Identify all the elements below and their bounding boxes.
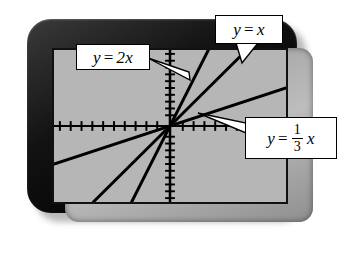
callout-label-third: y = 1 3 x bbox=[267, 123, 315, 154]
callout-lhs-two-x: y bbox=[93, 49, 101, 66]
callout-op-third: = bbox=[278, 130, 288, 147]
figure-canvas: y = 2x y = x y = 1 3 x bbox=[0, 0, 343, 259]
callout-lhs-third: y bbox=[267, 130, 275, 147]
callout-lhs-x: y bbox=[233, 21, 241, 38]
callout-label-x: y = x bbox=[233, 21, 264, 38]
callout-rhs-two-x: 2x bbox=[117, 49, 133, 66]
callout-y-equals-one-third-x: y = 1 3 x bbox=[245, 117, 337, 159]
callout-op-x: = bbox=[244, 21, 254, 38]
fraction-numerator: 1 bbox=[292, 123, 303, 138]
callout-op-two-x: = bbox=[104, 49, 114, 66]
callout-y-equals-2x: y = 2x bbox=[76, 44, 150, 70]
fraction-one-third: 1 3 bbox=[292, 123, 303, 154]
callout-variable-third: x bbox=[307, 130, 315, 147]
callout-rhs-x: x bbox=[257, 21, 265, 38]
callout-label-two-x: y = 2x bbox=[93, 49, 133, 66]
callout-y-equals-x: y = x bbox=[215, 15, 283, 44]
fraction-denominator: 3 bbox=[292, 138, 303, 154]
